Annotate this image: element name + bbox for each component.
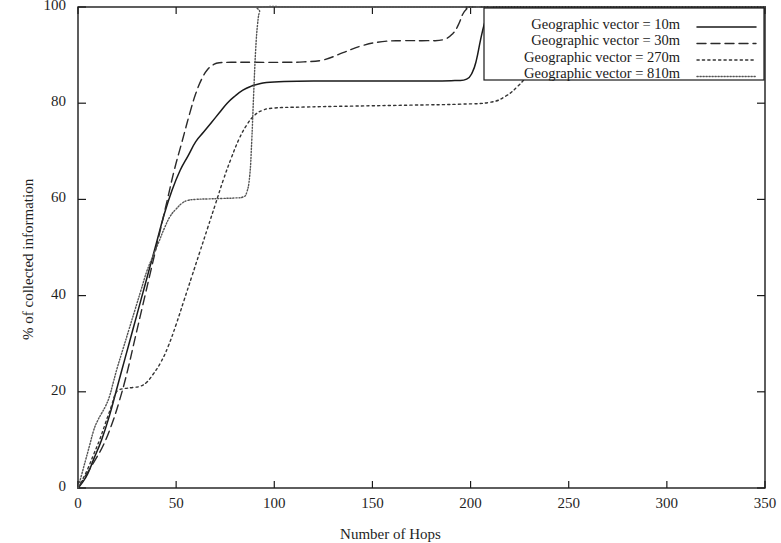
y-tick-label: 80 — [12, 93, 66, 110]
x-tick-label: 50 — [146, 495, 206, 512]
legend-label-0: Geographic vector = 10m — [531, 16, 680, 32]
x-tick-label: 200 — [441, 495, 501, 512]
x-tick-label: 300 — [637, 495, 697, 512]
x-tick-label: 250 — [539, 495, 599, 512]
legend-label-3: Geographic vector = 810m — [524, 65, 681, 81]
y-tick-label: 20 — [12, 382, 66, 399]
y-tick-label: 100 — [12, 0, 66, 14]
x-tick-label: 0 — [48, 495, 108, 512]
y-tick-label: 60 — [12, 189, 66, 206]
x-tick-label: 150 — [342, 495, 402, 512]
x-axis-title: Number of Hops — [0, 526, 781, 543]
legend-label-2: Geographic vector = 270m — [524, 49, 681, 65]
y-tick-label: 0 — [12, 478, 66, 495]
x-tick-label: 100 — [244, 495, 304, 512]
x-tick-label: 350 — [735, 495, 781, 512]
y-tick-label: 40 — [12, 286, 66, 303]
legend-label-1: Geographic vector = 30m — [531, 32, 680, 48]
